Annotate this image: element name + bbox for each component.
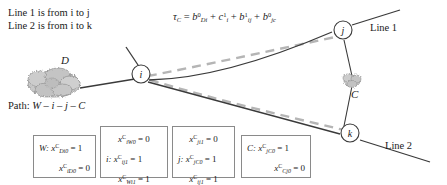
line-stub-above-i	[126, 47, 140, 68]
variable-value: = 1	[202, 154, 216, 164]
variable-equation: j: xCjC0 = 1	[178, 150, 229, 170]
variable-symbol: xCCj0	[274, 163, 291, 173]
variable-symbol: xCjC0	[258, 143, 275, 153]
variable-value: = 1	[136, 174, 150, 184]
variable-subscript: Cj0	[282, 168, 291, 174]
variable-subscript: Wi1	[126, 178, 135, 184]
node-i-label: i	[140, 69, 143, 80]
variable-symbol: xCDi0	[51, 143, 68, 153]
variable-value: = 0	[291, 163, 305, 173]
variable-subscript: Di0	[59, 148, 68, 154]
figure-canvas: i j k Line 1 is from i to j Line 2 is fr…	[0, 0, 447, 185]
variable-box-c: C: xCjC0 = 1xCCj0 = 0	[241, 135, 311, 178]
variable-symbol: xCiW0	[118, 134, 136, 144]
link-j-to-cloud-c	[344, 40, 352, 76]
variable-box-row: W: xCDi0 = 1xCiD0 = 0xCiW0 = 0i: xCij1 =…	[0, 123, 447, 181]
variable-symbol: xCiD0	[59, 163, 76, 173]
variable-subscript: jC0	[266, 148, 275, 154]
formula-expression: τC = b0Di + c1i + b1ij + b0jc	[173, 11, 276, 23]
formula-term: b0Di	[192, 11, 207, 22]
formula-plus: +	[228, 11, 239, 22]
variable-equation: xCji1 = 0	[178, 130, 229, 150]
formula-plus: +	[207, 11, 218, 22]
line-1-label: Line 1	[370, 22, 397, 33]
formula-term: b0jc	[263, 11, 276, 22]
legend-line-1: Line 1 is from i to j	[8, 6, 92, 19]
variable-value: = 0	[204, 134, 218, 144]
variable-subscript: iW0	[126, 139, 136, 145]
variable-box-j: xCji1 = 0j: xCjC0 = 1xCij1 = 1	[172, 126, 235, 178]
variable-symbol: xCjC0	[186, 154, 203, 164]
formula-term: b1ij	[239, 11, 251, 22]
variable-value: = 0	[136, 134, 150, 144]
legend: Line 1 is from i to j Line 2 is from i t…	[8, 6, 92, 32]
cloud-c-label: C	[351, 88, 358, 100]
path-statement: Path: W – i – j – C	[8, 100, 85, 111]
variable-subscript: iD0	[67, 168, 76, 174]
formula-equals: =	[184, 11, 190, 22]
variable-node-prefix: i:	[106, 154, 114, 164]
variable-box-i: xCiW0 = 0i: xCij1 = 1xCWi1 = 1	[100, 126, 168, 178]
variable-symbol: xCji1	[189, 134, 203, 144]
cloud-c	[343, 74, 361, 88]
variable-value: = 1	[204, 174, 218, 184]
variable-equation: W: xCDi0 = 1	[39, 139, 90, 159]
formula-lhs-sub: C	[177, 16, 181, 23]
path-label: Path:	[8, 100, 30, 111]
dashed-line-1	[148, 36, 340, 76]
formula-plus: +	[251, 11, 262, 22]
cloud-d	[28, 68, 80, 97]
cloud-d-label: D	[61, 54, 69, 66]
variable-equation: xCiW0 = 0	[106, 130, 162, 150]
path-value: W – i – j – C	[32, 100, 85, 111]
variable-node-prefix: j:	[178, 154, 186, 164]
variable-value: = 1	[68, 143, 82, 153]
formula-term-sub: jc	[271, 16, 276, 23]
variable-box-w: W: xCDi0 = 1xCiD0 = 0	[33, 135, 96, 178]
node-i[interactable]: i	[132, 65, 150, 83]
legend-line-2: Line 2 is from i to k	[8, 19, 92, 32]
variable-equation: xCCj0 = 0	[247, 159, 305, 179]
variable-equation: i: xCij1 = 1	[106, 150, 162, 170]
variable-symbol: xCij1	[114, 154, 128, 164]
variable-equation: xCij1 = 1	[178, 170, 229, 185]
variable-equation: C: xCjC0 = 1	[247, 139, 305, 159]
line-1-solid	[80, 79, 135, 88]
formula-term: c1i	[218, 11, 228, 22]
variable-value: = 1	[128, 154, 142, 164]
variable-equation: xCWi1 = 1	[106, 170, 162, 185]
variable-node-prefix: W:	[39, 143, 51, 153]
variable-equation: xCiD0 = 0	[39, 159, 90, 179]
node-j[interactable]: j	[334, 21, 352, 39]
formula-terms: b0Di + c1i + b1ij + b0jc	[192, 11, 276, 22]
variable-value: = 0	[76, 163, 90, 173]
variable-symbol: xCWi1	[118, 174, 135, 184]
variable-node-prefix: C:	[247, 143, 258, 153]
variable-value: = 1	[275, 143, 289, 153]
variable-symbol: xCij1	[189, 174, 203, 184]
